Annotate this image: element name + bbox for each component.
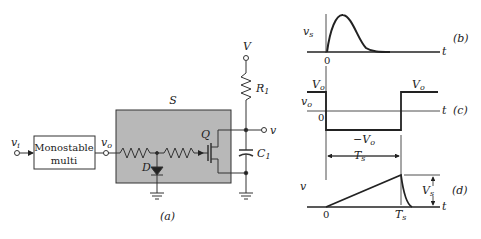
vo-low: −Vo — [353, 133, 375, 147]
caption-a: (a) — [160, 210, 175, 223]
t-label-c: t — [442, 104, 447, 117]
origin-c: 0 — [318, 112, 324, 123]
circuit-a — [15, 56, 267, 200]
c1-label: C1 — [257, 147, 271, 161]
switch-label: S — [169, 94, 177, 107]
waveform-b — [307, 14, 440, 53]
t-label-b: t — [442, 45, 447, 58]
diode-label: D — [141, 161, 151, 174]
vo-ylabel: vo — [301, 95, 312, 109]
supply-terminal — [244, 56, 249, 61]
sweep-circuit-diagram: vi Monostable multi vo S D Q V R1 C1 v (… — [0, 0, 481, 239]
origin-d: 0 — [323, 209, 329, 220]
caption-b: (b) — [453, 32, 469, 45]
input-label: vi — [11, 136, 20, 150]
monostable-label-1: Monostable — [34, 142, 93, 153]
origin-b: 0 — [324, 55, 330, 66]
caption-d: (d) — [452, 184, 468, 197]
r1-label: R1 — [255, 82, 269, 96]
output-terminal — [262, 128, 267, 133]
t-label-d: t — [442, 200, 447, 213]
vo-terminal — [104, 151, 109, 156]
resistor-r1 — [241, 70, 251, 130]
v-ylabel: v — [300, 180, 307, 193]
input-terminal — [15, 151, 20, 156]
vo-high-right: Vo — [412, 78, 425, 92]
output-label: v — [270, 124, 277, 137]
vo-high-left: Vo — [312, 78, 325, 92]
monostable-label-2: multi — [51, 155, 77, 166]
supply-label: V — [243, 40, 252, 53]
caption-c: (c) — [453, 104, 468, 117]
vs-amplitude: Vs — [422, 184, 434, 198]
vs-label: vs — [303, 25, 313, 39]
ts-period: Ts — [354, 149, 365, 163]
transistor-label: Q — [201, 128, 210, 141]
vo-label: vo — [101, 136, 112, 150]
ts-tick: Ts — [395, 208, 406, 222]
